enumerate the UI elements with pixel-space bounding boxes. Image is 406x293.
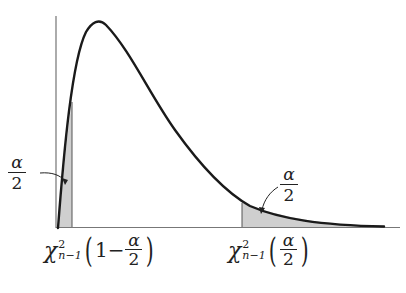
alpha-symbol: α — [11, 154, 22, 171]
right-critical-value-label: χ 2 n−1 ( α 2 ) — [228, 232, 311, 268]
right-tail-area-label: α 2 — [280, 166, 298, 204]
chi-symbol: χ — [228, 238, 241, 263]
close-paren: ) — [301, 233, 309, 267]
chi-symbol: χ — [44, 238, 57, 263]
left-tail-area-label: α 2 — [8, 154, 26, 192]
left-critical-value-label: χ 2 n−1 ( 1− α 2 ) — [44, 232, 157, 268]
right-arrow — [262, 187, 278, 210]
alpha-symbol: α — [283, 166, 294, 183]
open-paren: ( — [84, 233, 92, 267]
density-curve — [58, 21, 384, 228]
open-paren: ( — [268, 233, 276, 267]
close-paren: ) — [146, 233, 154, 267]
